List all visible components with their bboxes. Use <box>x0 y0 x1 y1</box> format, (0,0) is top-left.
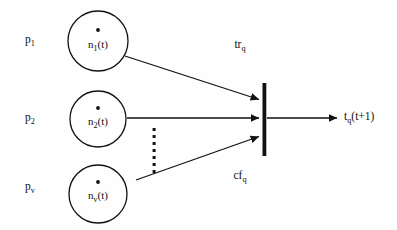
summation-bar <box>263 83 267 156</box>
diagram-canvas <box>0 0 397 230</box>
ellipsis-dots <box>153 128 156 173</box>
edge-n1-to-sum <box>125 56 259 100</box>
node-label-n1: n1(t) <box>88 39 108 52</box>
node-dot-nv <box>96 180 100 184</box>
node-label-nv: nv(t) <box>88 190 108 203</box>
input-label-p2: p2 <box>25 112 35 126</box>
connection-edges <box>125 56 337 180</box>
node-dot-n2 <box>96 106 100 110</box>
node-dot-n1 <box>96 28 100 32</box>
weight-label-cf-q: cfq <box>233 170 246 184</box>
weight-label-tr-q: trq <box>234 39 245 53</box>
output-label-tq: tq(t+1) <box>344 111 374 125</box>
node-label-n2: n2(t) <box>88 116 108 129</box>
input-label-p1: p1 <box>25 34 35 48</box>
input-label-pv: pv <box>25 181 35 195</box>
neural-node-diagram: p1 p2 pv n1(t) n2(t) nv(t) trq cfq tq(t+… <box>0 0 397 230</box>
